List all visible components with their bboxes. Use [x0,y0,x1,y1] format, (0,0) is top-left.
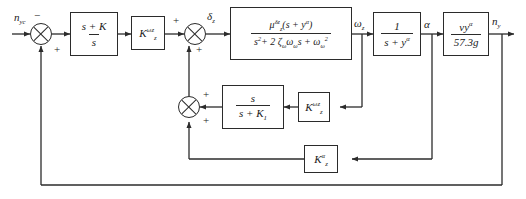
inner-gain-symbol: Kωzz [305,100,322,115]
airframe-den-s2: s + ω [298,36,321,47]
inner-summer-plus-bottom: + [203,115,209,126]
outer-gain-sub: z [325,159,328,166]
inner-gain-sup: ωz [313,100,320,107]
block-acceleration-conversion[interactable]: vyα 57.3g [443,12,489,56]
block-rate-gain[interactable]: Kωzz [131,16,165,50]
accel-conv-numerator: vyα [456,20,475,34]
inner-gain-sub: z [320,107,323,114]
label-output-signal: ny [492,16,501,30]
rate-gain-sup: ωz [147,26,154,33]
alpha-lag-numerator: 1 [391,20,403,34]
accel-conv-num-text: vy [459,20,469,32]
outer-gain-letter: K [314,152,321,164]
airframe-mu-sup: δz [275,18,280,25]
alpha-lag-den-text: s + y [384,36,406,48]
alpha-lag-denominator: s + yα [381,33,413,48]
inner-summer-plus-right: + [203,89,209,100]
summing-junction-inner [178,96,200,118]
output-signal-sub: y [498,22,501,29]
input-summer-plus-sign: + [54,44,60,55]
airframe-num-tail: (s + y [282,19,305,30]
omega-signal-sub: z [362,24,365,31]
alpha-signal-name: α [424,18,430,30]
label-alpha-signal: α [424,19,430,30]
alpha-lag-den-sup: α [406,35,410,42]
block-airframe-dynamics[interactable]: μδzz(s + yα) s2+ 2 ζωωωs + ωω2 [230,7,352,60]
rate-gain-letter: K [139,26,146,38]
label-omega-signal: ωz [354,18,364,32]
block-pi-controller[interactable]: s + K s [70,12,118,56]
washout-numerator: s [248,92,258,106]
rate-gain-symbol: Kωzz [139,26,156,41]
label-delta-signal: δz [207,11,215,25]
pi-denominator: s [89,34,99,49]
delta-signal-sub: z [212,17,215,24]
airframe-den-last-sup: 2 [325,35,328,42]
airframe-denominator: s2+ 2 ζωωωs + ωω2 [251,33,331,49]
omega-signal-name: ω [354,17,362,29]
airframe-num-close: ) [309,19,312,30]
accel-conv-denominator: 57.3g [451,34,482,49]
delta-summer-plus-bottom: + [196,44,202,55]
label-input-signal: nyc [14,12,26,26]
delta-summer-plus-left: + [173,15,179,26]
input-summer-minus-sign: − [34,10,40,21]
washout-den-sub: 1 [264,115,267,122]
summing-junction-input [30,23,52,45]
outer-gain-symbol: Kαz [314,152,328,167]
block-diagram-canvas: − + + + + + nyc δz ωz α ny s + K s Kωzz … [0,0,526,199]
rate-gain-sub: z [154,33,157,40]
airframe-den-last-sub: ω [320,42,324,49]
inner-gain-letter: K [305,100,312,112]
block-inner-rate-gain[interactable]: Kωzz [298,92,330,122]
washout-denominator: s + K1 [236,105,270,122]
washout-den-text: s + K [239,107,264,119]
airframe-den-mid: + 2 ζ [261,36,282,47]
block-outer-alpha-gain[interactable]: Kαz [304,145,338,173]
airframe-numerator: μδzz(s + yα) [267,18,316,33]
block-washout-filter[interactable]: s s + K1 [222,85,284,129]
accel-conv-num-sup: α [469,20,473,27]
summing-junction-delta [184,23,206,45]
block-alpha-lag[interactable]: 1 s + yα [373,12,421,56]
input-signal-sub: yc [20,18,26,25]
pi-numerator: s + K [79,20,110,34]
outer-gain-sup: α [322,152,326,159]
